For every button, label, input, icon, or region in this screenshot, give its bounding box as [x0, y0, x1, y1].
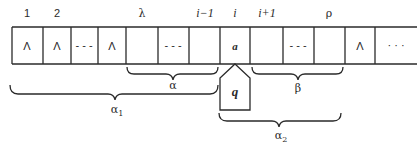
index-label-2: 2 — [54, 7, 60, 19]
tape-cell-4: Λ — [108, 40, 115, 52]
tape-cell-ellipsis: · · · — [387, 39, 404, 51]
tape-cell-3: - - - — [75, 39, 92, 51]
tape-cell-6: - - - — [164, 39, 181, 51]
brace-label-alpha1: α1 — [111, 103, 124, 118]
brace-alpha1 — [10, 85, 218, 100]
alpha1-subscript: 1 — [118, 109, 123, 118]
brace-alpha2 — [219, 113, 341, 127]
index-label-rho: ρ — [326, 7, 332, 20]
tape-cell-2: Λ — [53, 40, 60, 52]
brace-label-alpha: α — [169, 79, 176, 92]
tape-cell-10: - - - — [289, 39, 306, 51]
tape-cell-i: a — [232, 40, 238, 52]
brace-beta — [252, 67, 343, 80]
index-label-1: 1 — [24, 7, 30, 19]
alpha2-subscript: 2 — [282, 135, 287, 144]
index-label-i: i — [233, 6, 236, 21]
index-label-i-minus-1: i−1 — [196, 6, 213, 21]
brace-label-beta: β — [295, 82, 301, 95]
tape-cell-1: Λ — [23, 40, 30, 52]
head-state-label: q — [232, 84, 239, 100]
index-label-lambda: λ — [139, 7, 146, 20]
brace-label-alpha2: α2 — [275, 129, 288, 144]
index-label-i-plus-1: i+1 — [258, 6, 275, 21]
tape-cell-12: Λ — [356, 40, 363, 52]
tape-diagram — [0, 0, 417, 146]
